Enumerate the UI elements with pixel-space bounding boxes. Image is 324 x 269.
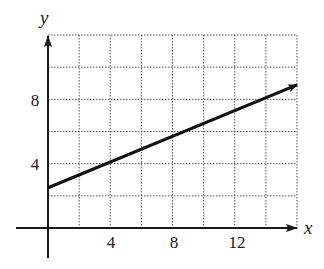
data-line [48, 85, 297, 188]
x-tick-label: 8 [170, 233, 179, 252]
chart: y x 4 8 12 4 8 [0, 0, 324, 269]
y-axis-label: y [38, 7, 49, 28]
y-tick-label: 4 [31, 155, 40, 174]
x-axis-label: x [303, 217, 313, 238]
x-tick-label: 12 [229, 233, 246, 252]
y-tick-label: 8 [31, 91, 40, 110]
x-tick-label: 4 [107, 233, 116, 252]
grid [48, 35, 297, 228]
